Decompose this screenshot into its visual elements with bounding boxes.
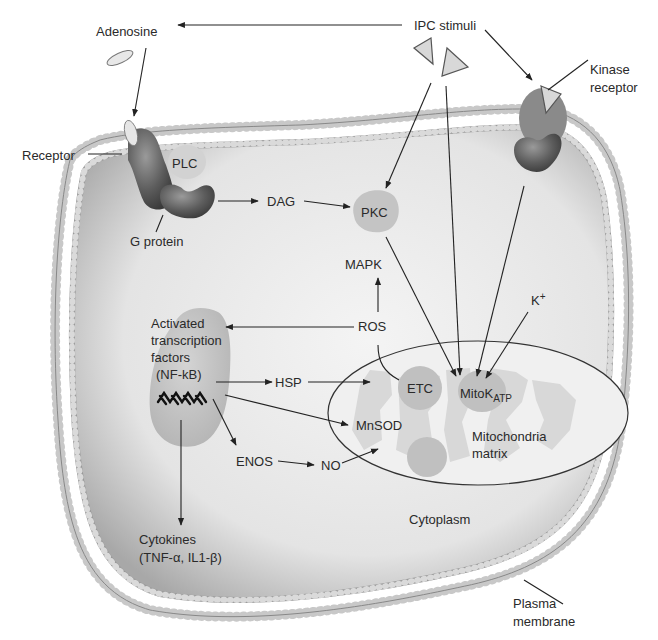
label-activated-tf-line1: Activated	[151, 316, 204, 331]
label-kinase-receptor-line1: Kinase	[590, 62, 630, 77]
label-ipc-stimuli: IPC stimuli	[414, 18, 476, 33]
ipc-pathway-diagram	[0, 0, 658, 640]
label-enos: ENOS	[236, 454, 273, 469]
label-activated-tf-line4: (NF-kB)	[156, 367, 202, 382]
label-activated-tf-line3: factors	[151, 350, 190, 365]
label-ros: ROS	[358, 319, 386, 334]
label-mnsod: MnSOD	[356, 418, 402, 433]
label-mapk: MAPK	[345, 257, 382, 272]
label-plc: PLC	[172, 156, 197, 171]
label-mito-matrix-line1: Mitochondria	[472, 429, 546, 444]
label-dag: DAG	[267, 194, 295, 209]
label-hsp: HSP	[275, 375, 302, 390]
label-receptor: Receptor	[22, 148, 75, 163]
label-etc: ETC	[407, 381, 433, 396]
label-plasma-membrane-line2: membrane	[513, 614, 575, 629]
mitochondrion	[328, 341, 628, 485]
label-mito-matrix-line2: matrix	[472, 446, 507, 461]
ipc-stimulus-triangle-icon	[442, 48, 468, 76]
label-cytokines-line1: Cytokines	[139, 532, 196, 547]
label-adenosine: Adenosine	[96, 24, 157, 39]
mito-unlabeled-blob	[407, 437, 447, 477]
label-cytokines-line2: (TNF-α, IL1-β)	[139, 550, 222, 565]
ipc-stimulus-triangle-icon	[414, 38, 433, 64]
label-no: NO	[321, 458, 341, 473]
label-pkc: PKC	[361, 205, 388, 220]
label-cytoplasm: Cytoplasm	[409, 512, 470, 527]
label-g-protein: G protein	[130, 234, 183, 249]
label-activated-tf-line2: transcription	[151, 333, 222, 348]
adenosine-molecule-icon	[105, 48, 135, 69]
label-plasma-membrane-line1: Plasma	[513, 596, 556, 611]
label-k-plus: K+	[531, 289, 546, 308]
label-kinase-receptor-line2: receptor	[590, 80, 638, 95]
label-mitok-atp: MitoKATP	[460, 386, 512, 406]
